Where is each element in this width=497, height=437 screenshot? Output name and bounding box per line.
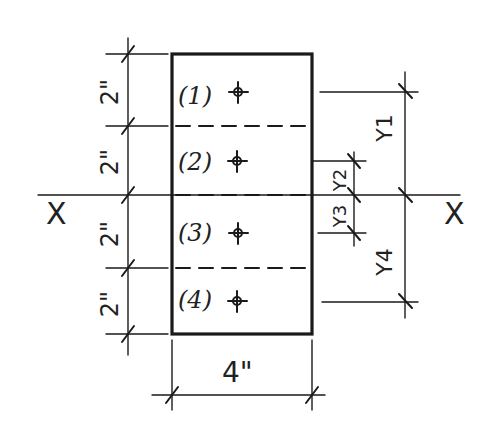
svg-text:2": 2" xyxy=(96,149,124,175)
section-diagram: X X 2" 2" 2" 2" (1) (2) (3) (4) Y1 Y2 Y3… xyxy=(0,0,497,437)
y4-label: Y4 xyxy=(372,248,397,276)
centroid-markers xyxy=(228,82,248,312)
svg-text:2": 2" xyxy=(96,291,124,317)
svg-text:2": 2" xyxy=(96,79,124,105)
height-labels: 2" 2" 2" 2" xyxy=(96,79,124,317)
y1-label: Y1 xyxy=(372,114,397,142)
y2-label: Y2 xyxy=(329,169,350,192)
width-label: 4" xyxy=(222,356,253,389)
segment-label-3: (3) xyxy=(178,219,212,247)
segment-label-4: (4) xyxy=(178,286,212,314)
svg-text:2": 2" xyxy=(96,221,124,247)
y3-label: Y3 xyxy=(329,205,350,228)
segment-label-2: (2) xyxy=(178,148,212,176)
x-axis-label-right: X xyxy=(444,196,465,231)
segment-label-1: (1) xyxy=(178,82,212,110)
x-axis-label-left: X xyxy=(46,196,67,231)
